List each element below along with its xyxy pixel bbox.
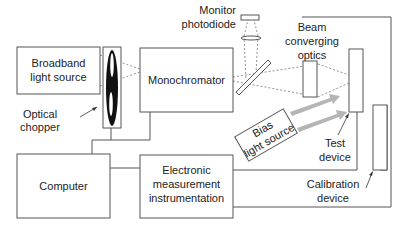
- svg-text:Broadband: Broadband: [32, 57, 86, 69]
- svg-text:Computer: Computer: [39, 180, 88, 192]
- svg-text:Calibration: Calibration: [307, 178, 360, 190]
- svg-text:instrumentation: instrumentation: [149, 192, 224, 204]
- electronic-measurement-instrumentation: Electronic measurement instrumentation: [140, 155, 233, 218]
- computer: Computer: [17, 154, 110, 218]
- test-device: Test device: [319, 49, 363, 163]
- bias-light-source: Bias light source: [235, 109, 298, 161]
- svg-text:photodiode: photodiode: [182, 18, 236, 30]
- beam-splitter-mirror: [236, 60, 271, 95]
- svg-text:Electronic: Electronic: [162, 164, 211, 176]
- svg-text:Optical: Optical: [23, 108, 57, 120]
- svg-text:measurement: measurement: [153, 178, 220, 190]
- svg-text:light source: light source: [30, 71, 86, 83]
- lens-icon: [241, 36, 261, 40]
- svg-text:Test: Test: [325, 137, 345, 149]
- monochromator: Monochromator: [140, 48, 233, 112]
- svg-text:device: device: [317, 192, 349, 204]
- broadband-light-source: Broadband light source: [17, 47, 100, 94]
- svg-text:Monitor: Monitor: [199, 4, 236, 16]
- svg-text:chopper: chopper: [20, 121, 60, 133]
- spectral-response-diagram: Broadband light source Optical chopper M…: [0, 0, 405, 230]
- svg-text:Beam: Beam: [298, 21, 327, 33]
- svg-text:converging: converging: [285, 35, 339, 47]
- beam-converging-optics: Beam converging optics: [285, 21, 339, 97]
- photodiode-icon: [241, 15, 259, 20]
- svg-text:optics: optics: [298, 49, 327, 61]
- bias-light-arrows: [290, 94, 347, 132]
- svg-text:Monochromator: Monochromator: [148, 74, 225, 86]
- monitor-photodiode: Monitor photodiode: [182, 4, 261, 40]
- svg-text:device: device: [319, 151, 351, 163]
